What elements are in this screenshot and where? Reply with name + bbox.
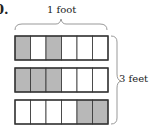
unshaded-cell <box>77 36 93 60</box>
unshaded-cell <box>62 68 78 92</box>
shaded-cell <box>15 68 31 92</box>
unshaded-cell <box>31 36 47 60</box>
shaded-cell <box>46 36 62 60</box>
shaded-cell <box>31 68 47 92</box>
strip-row-3 <box>15 100 108 124</box>
unshaded-cell <box>77 68 93 92</box>
unshaded-cell <box>46 100 62 124</box>
unshaded-cell <box>62 36 78 60</box>
top-brace <box>15 19 107 30</box>
strip-row-2 <box>15 68 108 92</box>
unshaded-cell <box>93 36 109 60</box>
shaded-cell <box>93 100 109 124</box>
right-brace <box>111 36 121 124</box>
strip-row-1 <box>15 36 108 60</box>
shaded-cell <box>46 68 62 92</box>
shaded-cell <box>15 36 31 60</box>
fraction-strip-diagram <box>0 0 157 130</box>
unshaded-cell <box>93 68 109 92</box>
unshaded-cell <box>31 100 47 124</box>
shaded-cell <box>77 100 93 124</box>
unshaded-cell <box>62 100 78 124</box>
unshaded-cell <box>15 100 31 124</box>
